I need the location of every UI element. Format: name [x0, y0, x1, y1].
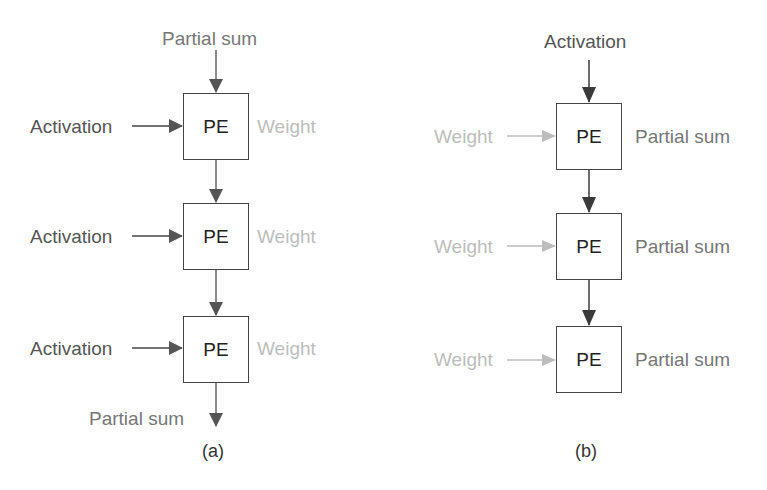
weight-label: Weight — [434, 350, 493, 369]
pe-box: PE — [183, 93, 249, 160]
pe-box: PE — [183, 203, 249, 270]
partial-sum-label: Partial sum — [635, 237, 730, 256]
pe-box: PE — [556, 213, 622, 280]
partial-sum-label: Partial sum — [635, 350, 730, 369]
activation-label: Activation — [30, 339, 112, 358]
pe-box: PE — [556, 103, 622, 170]
activation-input-label: Activation — [544, 32, 626, 51]
weight-label: Weight — [257, 227, 316, 246]
partial-sum-label: Partial sum — [635, 127, 730, 146]
caption-a: (a) — [202, 441, 224, 462]
weight-label: Weight — [434, 127, 493, 146]
caption-b: (b) — [575, 441, 597, 462]
pe-box: PE — [183, 316, 249, 383]
weight-label: Weight — [257, 339, 316, 358]
activation-label: Activation — [30, 227, 112, 246]
pe-box: PE — [556, 326, 622, 393]
partial-sum-input-label: Partial sum — [162, 29, 257, 48]
activation-label: Activation — [30, 117, 112, 136]
weight-label: Weight — [434, 237, 493, 256]
partial-sum-output-label: Partial sum — [89, 409, 184, 428]
weight-label: Weight — [257, 117, 316, 136]
